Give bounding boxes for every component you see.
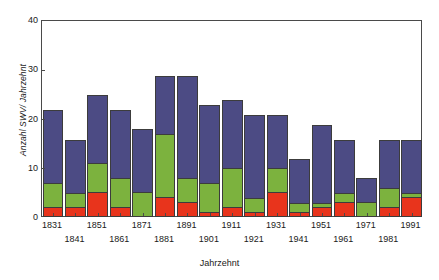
- x-tick-mark: [367, 213, 368, 216]
- x-tick-label-1981: 1981: [373, 234, 403, 244]
- bar-1861: [110, 110, 131, 216]
- x-tick-label-1931: 1931: [261, 220, 291, 230]
- bar-segment-series-green-1921: [244, 198, 265, 213]
- bar-segment-series-blue-1881: [155, 76, 176, 135]
- x-tick-mark: [98, 213, 99, 216]
- x-tick-mark: [143, 213, 144, 216]
- y-tick-mark: [42, 119, 45, 120]
- bar-segment-series-green-1851: [87, 163, 108, 193]
- bar-1921: [244, 115, 265, 216]
- bar-segment-series-blue-1991: [401, 140, 422, 194]
- x-tick-label-1841: 1841: [59, 234, 89, 244]
- bar-segment-series-blue-1961: [334, 140, 355, 194]
- bar-series-container: [42, 21, 421, 216]
- bar-segment-series-blue-1891: [177, 76, 198, 179]
- x-tick-mark: [344, 213, 345, 216]
- bar-1991: [401, 140, 422, 216]
- bar-1911: [222, 100, 243, 216]
- x-tick-mark: [255, 213, 256, 216]
- bar-segment-series-green-1901: [199, 183, 220, 213]
- bar-segment-series-blue-1851: [87, 95, 108, 164]
- bar-1881: [155, 76, 176, 216]
- x-tick-label-1961: 1961: [328, 234, 358, 244]
- bar-1971: [356, 178, 377, 216]
- bar-segment-series-green-1911: [222, 168, 243, 207]
- x-tick-label-1991: 1991: [396, 220, 426, 230]
- bar-segment-series-blue-1871: [132, 129, 153, 193]
- bar-segment-series-green-1981: [379, 188, 400, 208]
- x-tick-label-1971: 1971: [351, 220, 381, 230]
- bar-1841: [65, 140, 86, 216]
- y-tick-mark: [42, 168, 45, 169]
- x-tick-label-1911: 1911: [216, 220, 246, 230]
- bar-segment-series-green-1831: [43, 183, 64, 208]
- x-tick-label-1851: 1851: [82, 220, 112, 230]
- bar-segment-series-blue-1831: [43, 110, 64, 184]
- x-tick-label-1871: 1871: [127, 220, 157, 230]
- y-axis-tick-labels: 010203040: [12, 0, 38, 280]
- bar-segment-series-blue-1981: [379, 140, 400, 189]
- x-tick-mark: [165, 213, 166, 216]
- x-tick-mark: [75, 213, 76, 216]
- x-tick-label-1951: 1951: [306, 220, 336, 230]
- bar-1891: [177, 76, 198, 216]
- x-tick-mark: [232, 213, 233, 216]
- y-tick-label: 0: [16, 212, 38, 222]
- x-tick-mark: [389, 213, 390, 216]
- bar-segment-series-blue-1971: [356, 178, 377, 203]
- bar-1931: [267, 115, 288, 216]
- bar-segment-series-blue-1841: [65, 140, 86, 194]
- chart-figure: Anzahl SWV/ Jahrzehnt 010203040 18311841…: [0, 0, 439, 280]
- x-tick-mark: [322, 213, 323, 216]
- x-tick-label-1831: 1831: [37, 220, 67, 230]
- y-tick-label: 40: [16, 15, 38, 25]
- bar-1871: [132, 129, 153, 216]
- bar-segment-series-blue-1921: [244, 115, 265, 199]
- bar-1831: [43, 110, 64, 216]
- bar-1981: [379, 140, 400, 216]
- bar-segment-series-green-1881: [155, 134, 176, 198]
- bar-segment-series-blue-1901: [199, 105, 220, 184]
- bar-segment-series-blue-1931: [267, 115, 288, 169]
- bar-1951: [312, 125, 333, 216]
- y-tick-label: 10: [16, 163, 38, 173]
- bar-segment-series-blue-1951: [312, 125, 333, 204]
- bar-1901: [199, 105, 220, 216]
- bar-segment-series-green-1931: [267, 168, 288, 193]
- x-tick-mark: [300, 213, 301, 216]
- bar-segment-series-green-1841: [65, 193, 86, 208]
- x-tick-mark: [412, 213, 413, 216]
- y-tick-mark: [42, 70, 45, 71]
- plot-area: [41, 20, 422, 217]
- y-tick-label: 20: [16, 114, 38, 124]
- bar-1961: [334, 140, 355, 216]
- x-tick-label-1921: 1921: [239, 234, 269, 244]
- y-tick-label: 30: [16, 64, 38, 74]
- x-tick-label-1941: 1941: [284, 234, 314, 244]
- x-tick-label-1891: 1891: [171, 220, 201, 230]
- x-tick-mark: [210, 213, 211, 216]
- bar-segment-series-blue-1911: [222, 100, 243, 169]
- x-tick-mark: [120, 213, 121, 216]
- bar-1851: [87, 95, 108, 216]
- bar-segment-series-blue-1861: [110, 110, 131, 179]
- x-tick-mark: [277, 213, 278, 216]
- x-axis-label: Jahrzehnt: [0, 258, 439, 268]
- x-tick-label-1881: 1881: [149, 234, 179, 244]
- x-tick-mark: [53, 213, 54, 216]
- x-tick-mark: [187, 213, 188, 216]
- bar-segment-series-blue-1941: [289, 159, 310, 203]
- bar-1941: [289, 159, 310, 216]
- x-tick-label-1901: 1901: [194, 234, 224, 244]
- bar-segment-series-green-1861: [110, 178, 131, 208]
- bar-segment-series-green-1891: [177, 178, 198, 203]
- x-tick-label-1861: 1861: [104, 234, 134, 244]
